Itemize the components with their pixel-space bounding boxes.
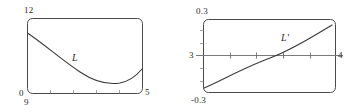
curve-label-L-prime: L'	[281, 33, 289, 43]
label-right-axis-left: 3	[189, 51, 194, 60]
curve-L-prime	[204, 25, 332, 88]
panel-right: 0.3 -0.3 3 4 L'	[0, 0, 360, 112]
label-right-axis-right: 4	[338, 51, 343, 60]
panel-right-graphic	[0, 0, 360, 112]
label-right-y-top: 0.3	[196, 7, 208, 16]
label-right-y-bottom: -0.3	[191, 96, 206, 105]
figure-container: 12 0 9 5 L	[0, 0, 360, 112]
